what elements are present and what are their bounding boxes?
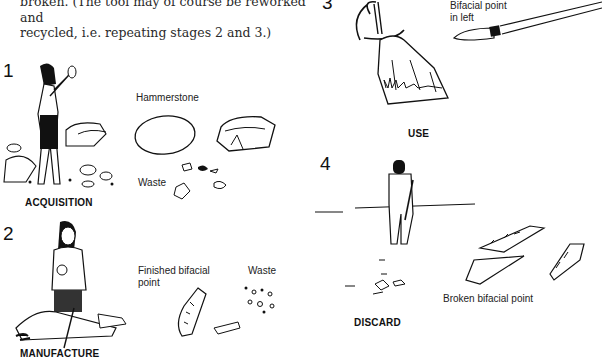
label-waste-1: Waste (138, 177, 166, 189)
manufacture-figure-illustration (10, 218, 130, 348)
label-finished-line-1: Finished bifacial (138, 265, 210, 277)
broken-points-illustration (460, 218, 600, 288)
hafted-spear-illustration (450, 2, 602, 42)
label-hammerstone: Hammerstone (136, 92, 199, 104)
acquisition-figure-illustration (0, 60, 130, 190)
discard-figure-illustration (315, 160, 475, 310)
stage-4-title: DISCARD (354, 317, 401, 328)
intro-paragraph: broken. (The tool may of course be rewor… (20, 0, 310, 41)
stage-3-title: USE (408, 128, 429, 139)
label-broken-bifacial-point: Broken bifacial point (443, 293, 533, 305)
stage-2-title: MANUFACTURE (20, 348, 99, 359)
finished-point-illustration (160, 282, 280, 342)
waste-flakes-illustration (170, 165, 240, 205)
label-waste-2: Waste (248, 265, 276, 277)
intro-line-2: recycled, i.e. repeating stages 2 and 3.… (20, 25, 310, 41)
intro-line-1: broken. (The tool may of course be rewor… (20, 0, 310, 25)
stage-3-number: 3 (322, 0, 333, 14)
hammerstone-illustration (135, 105, 295, 155)
stage-1-title: ACQUISITION (25, 197, 93, 208)
